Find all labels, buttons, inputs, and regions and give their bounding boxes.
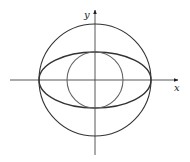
diagram-canvas: x y [0,0,190,162]
x-axis-label: x [174,82,180,93]
axes: x y [10,9,180,155]
y-axis-label: y [83,9,90,20]
